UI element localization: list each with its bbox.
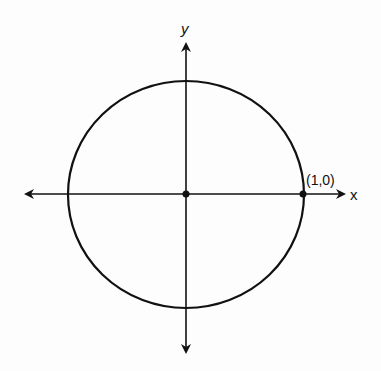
diagram-canvas: x y (1,0): [0, 0, 381, 371]
origin-point: [183, 191, 190, 198]
point-1-0: [300, 191, 307, 198]
y-axis-label: y: [180, 20, 190, 37]
point-1-0-label: (1,0): [306, 172, 335, 188]
x-axis-label: x: [350, 186, 358, 203]
unit-circle-diagram: x y (1,0): [0, 0, 381, 371]
